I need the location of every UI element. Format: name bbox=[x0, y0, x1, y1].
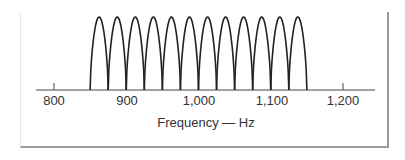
tick-label-1100: 1,100 bbox=[256, 93, 289, 108]
x-axis-label: Frequency — Hz bbox=[157, 115, 255, 130]
plot-area bbox=[0, 0, 405, 160]
tick-label-900: 900 bbox=[116, 93, 138, 108]
lobe-series bbox=[90, 17, 307, 90]
tick-label-1200: 1,200 bbox=[327, 93, 360, 108]
tick-label-800: 800 bbox=[43, 93, 65, 108]
tick-label-1000: 1,000 bbox=[183, 93, 216, 108]
